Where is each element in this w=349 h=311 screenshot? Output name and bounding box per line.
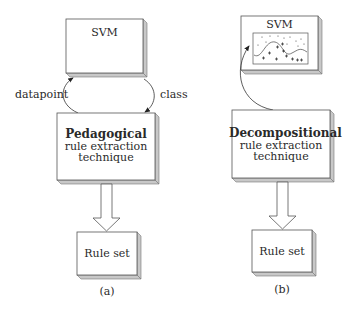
ruleset-label-a: Rule set	[77, 248, 137, 260]
svm-decision-boundary-plot	[253, 33, 308, 64]
caption-b: (b)	[265, 284, 299, 296]
pedagogical-line3: technique	[57, 152, 155, 164]
hollow-arrow-a	[93, 184, 120, 231]
hollow-arrow-b	[269, 182, 296, 229]
class-arrow	[144, 79, 154, 112]
svm-label-b: SVM	[241, 19, 318, 31]
datapoint-label: datapoint	[15, 89, 63, 101]
class-label: class	[160, 89, 190, 101]
decompositional-line3: technique	[232, 151, 330, 163]
caption-a: (a)	[90, 286, 124, 298]
svm-label-a: SVM	[66, 27, 143, 39]
ruleset-label-b: Rule set	[252, 246, 312, 258]
